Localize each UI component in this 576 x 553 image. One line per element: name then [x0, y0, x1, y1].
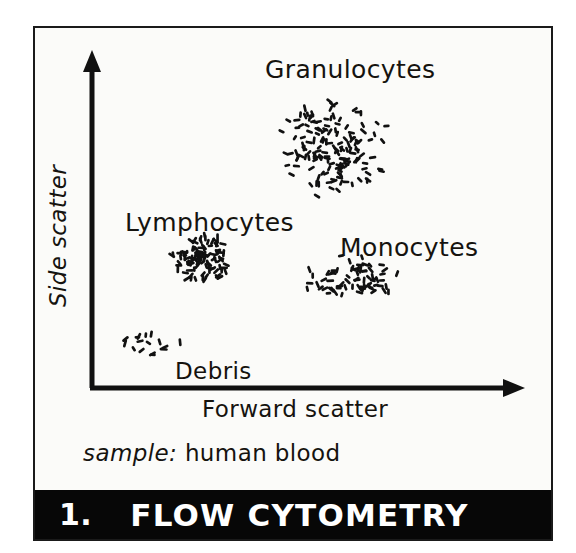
figure-title: FLOW CYTOMETRY — [130, 497, 468, 533]
figure-title-bar: 1. FLOW CYTOMETRY — [35, 490, 551, 539]
cluster-granulocytes — [280, 100, 389, 198]
sample-caption: sample: human blood — [83, 440, 341, 466]
x-axis-label: Forward scatter — [202, 396, 388, 422]
cluster-label-lymphocytes: Lymphocytes — [125, 208, 294, 237]
figure-panel: Granulocytes Lymphocytes Monocytes Debri… — [33, 26, 553, 541]
cluster-label-monocytes: Monocytes — [340, 233, 478, 262]
cluster-label-granulocytes: Granulocytes — [265, 55, 435, 84]
cluster-lymphocytes — [170, 233, 229, 282]
sample-caption-prefix: sample: — [83, 440, 177, 466]
y-axis-label: Side scatter — [45, 165, 71, 307]
y-axis-arrowhead — [83, 50, 101, 72]
sample-caption-value: human blood — [177, 440, 340, 466]
cluster-label-debris: Debris — [175, 358, 252, 384]
cluster-debris — [123, 332, 180, 355]
scatter-plot-area: Granulocytes Lymphocytes Monocytes Debri… — [35, 28, 555, 494]
x-axis-arrowhead — [503, 379, 525, 397]
figure-number: 1. — [59, 497, 92, 532]
flow-cytometry-figure: Granulocytes Lymphocytes Monocytes Debri… — [0, 0, 576, 553]
